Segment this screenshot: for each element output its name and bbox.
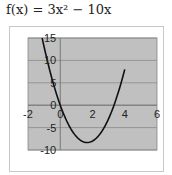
x-tick-label: 2 — [89, 108, 95, 120]
y-tick-label: 15 — [44, 32, 56, 44]
x-tick-label: 6 — [154, 108, 160, 120]
x-tick-label: 0 — [57, 108, 63, 120]
y-tick-label: -10 — [40, 144, 56, 156]
y-tick-label: 0 — [50, 99, 56, 111]
x-tick-label: -2 — [23, 108, 33, 120]
chart: 151050-5-10-20246 — [0, 0, 172, 175]
x-tick-label: 4 — [122, 108, 128, 120]
y-tick-label: -5 — [46, 122, 56, 134]
y-tick-label: 10 — [44, 54, 56, 66]
y-tick-label: 5 — [50, 77, 56, 89]
